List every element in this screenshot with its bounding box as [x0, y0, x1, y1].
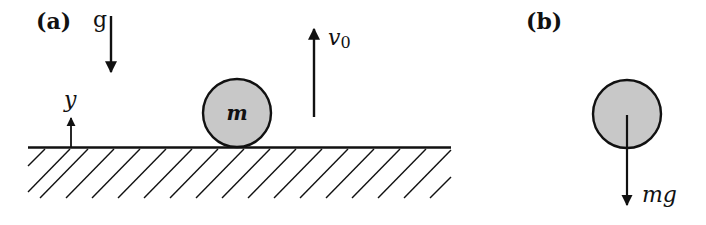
panel-a: (a) g y v0 m [28, 7, 451, 198]
panel-a-label: (a) [36, 8, 71, 34]
panel-b-label: (b) [526, 8, 562, 34]
panel-b: (b) mg [526, 8, 677, 207]
free-fall-diagram: (a) g y v0 m [0, 0, 706, 225]
ground-hatching [28, 149, 451, 198]
mass-label: m [226, 101, 247, 125]
y-axis-label: y [63, 87, 77, 112]
weight-force-label: mg [642, 182, 677, 207]
velocity-label: v0 [328, 25, 351, 52]
gravity-label: g [93, 7, 107, 32]
